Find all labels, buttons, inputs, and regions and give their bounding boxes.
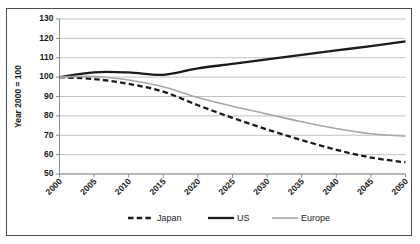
x-tick-label: 2015 <box>147 176 168 197</box>
y-tick-label: 50 <box>44 168 54 178</box>
line-chart: 5060708090100110120130 20002005201020152… <box>0 0 420 244</box>
y-tick-label: 120 <box>39 33 53 43</box>
x-tick-label: 2045 <box>355 176 376 197</box>
legend-label-japan: Japan <box>157 213 182 223</box>
y-tick-label: 110 <box>40 52 54 62</box>
x-tick-label: 2000 <box>43 176 64 197</box>
x-tick-label: 2010 <box>113 176 134 197</box>
x-tick-label: 2020 <box>182 176 203 197</box>
y-axis-ticks <box>56 19 60 174</box>
y-tick-label: 130 <box>39 13 53 23</box>
x-tick-label: 2050 <box>389 176 410 197</box>
x-tick-label: 2040 <box>320 176 341 197</box>
legend-label-us: US <box>237 213 250 223</box>
y-tick-label: 100 <box>39 71 53 81</box>
y-tick-label: 70 <box>44 130 54 140</box>
y-tick-label: 80 <box>44 110 54 120</box>
legend-label-europe: Europe <box>301 213 330 223</box>
x-tick-label: 2030 <box>251 176 272 197</box>
y-tick-label: 90 <box>44 91 54 101</box>
y-axis-tick-labels: 5060708090100110120130 <box>39 13 53 178</box>
data-series-group <box>60 41 406 162</box>
series-line-us <box>60 41 406 77</box>
y-axis-title: Year 2000 = 100 <box>13 65 23 128</box>
y-tick-label: 60 <box>44 149 54 159</box>
gridlines-group <box>60 19 406 174</box>
y-axis-title-text: Year 2000 = 100 <box>13 65 23 128</box>
x-tick-label: 2035 <box>286 176 307 197</box>
x-axis-tick-labels: 2000200520102015202020252030203520402045… <box>43 176 410 197</box>
x-axis-ticks <box>60 174 406 178</box>
chart-legend: JapanUSEurope <box>128 213 330 223</box>
x-tick-label: 2005 <box>78 176 99 197</box>
x-tick-label: 2025 <box>216 176 237 197</box>
series-line-europe <box>60 76 406 136</box>
series-line-japan <box>60 77 406 162</box>
